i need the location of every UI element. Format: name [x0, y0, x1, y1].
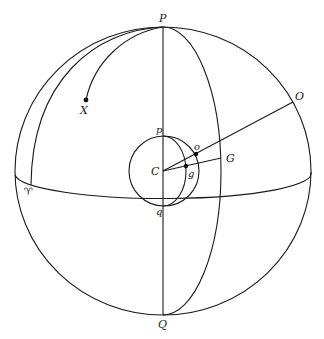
label-observer: O [295, 90, 304, 103]
label-star: X [79, 104, 89, 117]
label-small-south: q [156, 206, 162, 217]
arc-p-to-x [86, 27, 163, 100]
point-o [194, 152, 198, 156]
meridian-vernal-equinox [31, 27, 163, 185]
label-g-direction: G [226, 152, 235, 165]
label-small-g: g [188, 168, 194, 179]
label-small-north: p [156, 124, 163, 135]
celestial-sphere-diagram: P Q C X O G p q o g ♈ [0, 0, 324, 339]
inner-meridian [163, 136, 186, 206]
label-north-pole: P [158, 12, 167, 25]
label-small-o: o [194, 141, 200, 152]
point-x [84, 98, 89, 103]
label-south-pole: Q [158, 318, 167, 331]
vernal-equinox-icon: ♈ [24, 186, 33, 197]
label-center: C [151, 165, 160, 178]
